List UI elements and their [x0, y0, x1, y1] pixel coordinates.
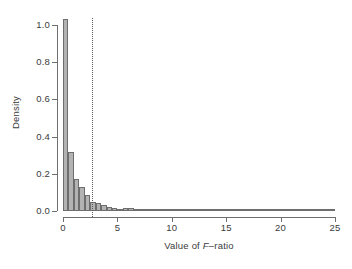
- x-axis-title: Value of F–ratio: [63, 240, 335, 251]
- y-axis-tick: [52, 137, 57, 138]
- plot-area: [63, 25, 335, 211]
- x-axis-tick-label: 20: [261, 223, 301, 233]
- y-axis-tick: [52, 99, 57, 100]
- y-axis-tick: [52, 211, 57, 212]
- critical-value-line: [92, 18, 93, 217]
- y-axis-tick: [52, 25, 57, 26]
- y-axis-tick-label: 0.0: [10, 206, 50, 216]
- chart-figure: Density 0.00.20.40.60.81.0 0510152025 Va…: [0, 0, 352, 269]
- histogram-bars: [63, 25, 335, 211]
- x-axis-tick-label: 5: [97, 223, 137, 233]
- y-axis-tick-label: 0.2: [10, 169, 50, 179]
- x-axis-tick-label: 15: [206, 223, 246, 233]
- x-axis-title-prefix: Value of: [164, 240, 203, 251]
- y-axis-tick-label: 0.6: [10, 94, 50, 104]
- x-axis-tick-label: 10: [152, 223, 192, 233]
- histogram-bar: [330, 209, 335, 211]
- x-axis-tick-label: 25: [315, 223, 352, 233]
- x-axis-tick-label: 0: [43, 223, 83, 233]
- y-axis-tick: [52, 62, 57, 63]
- y-axis-tick-label: 1.0: [10, 20, 50, 30]
- x-axis-line: [63, 217, 335, 218]
- y-axis-tick: [52, 174, 57, 175]
- y-axis-tick-label: 0.8: [10, 57, 50, 67]
- y-axis-tick-label: 0.4: [10, 132, 50, 142]
- y-axis-line: [57, 25, 58, 211]
- x-axis-title-suffix: –ratio: [209, 240, 234, 251]
